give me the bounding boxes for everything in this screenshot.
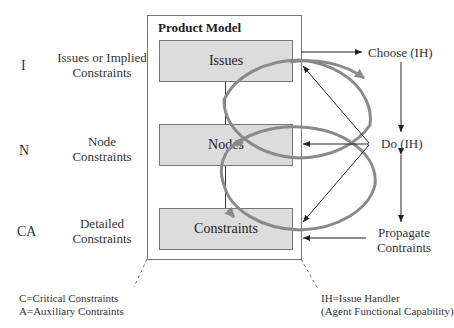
label-issues-line1: Issues or Implied xyxy=(52,50,152,65)
cycle-ellipse-upper xyxy=(224,60,370,158)
legend-auxiliary: A=Auxiliary Contraints xyxy=(19,305,124,318)
do-ih-label: Do (IH) xyxy=(381,136,423,151)
ellipse-arrow-lower xyxy=(228,210,234,217)
legend-ih: IH=Issue Handler xyxy=(321,292,454,305)
label-detailed-line2: Constraints xyxy=(52,231,152,246)
legend-critical: C=Critical Constraints xyxy=(19,292,124,305)
code-I: I xyxy=(21,58,26,74)
code-N: N xyxy=(19,143,29,159)
propagate-label: Propagate Contraints xyxy=(369,225,439,255)
label-detailed-constraints: Detailed Constraints xyxy=(52,216,152,246)
legend-constraint-types: C=Critical Constraints A=Auxiliary Contr… xyxy=(19,292,124,318)
label-node-constraints: Node Constraints xyxy=(52,134,152,164)
label-node-line1: Node xyxy=(52,134,152,149)
label-issues-line2: Constraints xyxy=(52,65,152,80)
propagate-line2: Contraints xyxy=(369,240,439,255)
label-issues-implied: Issues or Implied Constraints xyxy=(52,50,152,80)
arrow-do-to-issues xyxy=(303,66,369,143)
cycle-ellipse-lower xyxy=(221,127,375,230)
label-detailed-line1: Detailed xyxy=(52,216,152,231)
label-node-line2: Constraints xyxy=(52,149,152,164)
code-CA: CA xyxy=(17,224,36,240)
propagate-line1: Propagate xyxy=(369,225,439,240)
legend-ih-desc: (Agent Functional Capability) xyxy=(321,305,454,318)
legend-leader-right xyxy=(301,259,318,289)
choose-ih-label: Choose (IH) xyxy=(368,45,433,60)
legend-leader-left xyxy=(134,259,147,287)
legend-issue-handler: IH=Issue Handler (Agent Functional Capab… xyxy=(321,292,454,318)
